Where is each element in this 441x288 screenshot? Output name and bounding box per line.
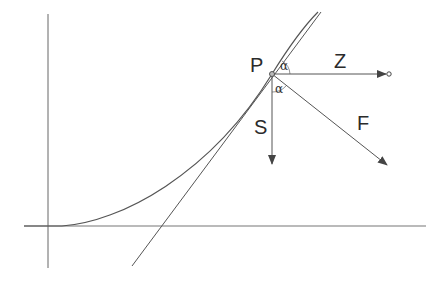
label-alpha-lower: α (275, 82, 283, 96)
tangent-line (132, 12, 321, 266)
label-f: F (357, 112, 369, 134)
force-diagram: P Z S F α α (0, 0, 441, 288)
point-p-marker (270, 72, 275, 77)
f-arrow (272, 74, 387, 165)
label-p: P (250, 54, 263, 76)
label-s: S (254, 116, 267, 138)
curve (24, 12, 318, 226)
label-z: Z (334, 50, 346, 72)
z-arrow-end-circle (387, 72, 391, 76)
label-alpha-upper: α (280, 59, 288, 73)
